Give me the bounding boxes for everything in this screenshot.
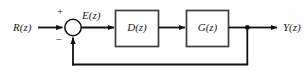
controller-block-label: D(z): [126, 21, 147, 34]
plus-sign-label: +: [57, 5, 63, 17]
plant-block-label: G(z): [198, 21, 218, 34]
minus-sign-label: −: [55, 33, 61, 45]
input-signal-label: R(z): [12, 21, 32, 34]
block-diagram-svg: R(z) + − E(z) D(z) G(z) Y(z): [0, 0, 304, 79]
error-signal-label: E(z): [81, 9, 101, 22]
block-diagram-canvas: R(z) + − E(z) D(z) G(z) Y(z): [0, 0, 304, 79]
output-signal-label: Y(z): [283, 21, 301, 34]
summing-junction: [65, 19, 81, 35]
